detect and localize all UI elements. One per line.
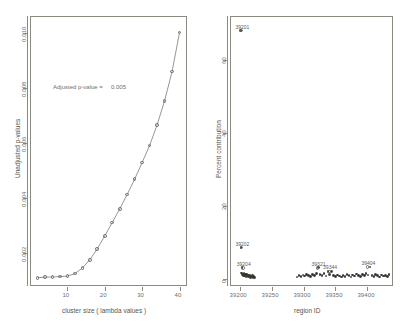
left-x-tick [142, 287, 143, 291]
left-x-tick [105, 287, 106, 291]
right-plot-frame [230, 16, 393, 286]
left-annotation-value: 0.005 [111, 84, 126, 90]
right-x-tick [272, 287, 273, 291]
left-y-ticklabel: 0.006 [21, 136, 27, 152]
left-marker [95, 247, 99, 251]
right-x-tick [335, 287, 336, 291]
right-data-point [315, 272, 318, 275]
left-y-axis-title: Unadjusted p-values [14, 119, 21, 178]
right-point-label: 39204 [237, 261, 251, 267]
right-data-point [378, 276, 381, 279]
right-y-axis-title: Percent contribution [215, 120, 222, 178]
left-plot-frame [30, 16, 187, 286]
right-x-ticklabel: 39300 [294, 292, 311, 298]
right-x-axis-title: region ID [294, 307, 320, 314]
left-marker [118, 207, 122, 211]
left-y-ticklabel: 0.010 [21, 26, 27, 42]
right-x-ticklabel: 39400 [357, 292, 374, 298]
left-y-ticklabel: 0.004 [21, 191, 27, 207]
figure-container: 0.0020.0040.0060.0080.010 10203040 Unadj… [0, 0, 408, 327]
right-y-ticklabel: 60 [221, 57, 227, 64]
right-data-point [253, 276, 256, 279]
right-y-axis-line [227, 16, 228, 286]
left-x-ticklabel: 10 [62, 292, 69, 298]
left-marker [88, 258, 92, 262]
right-x-ticklabel: 39350 [325, 292, 342, 298]
right-x-ticklabel: 39200 [230, 292, 247, 298]
left-marker [73, 272, 77, 276]
left-x-ticklabel: 20 [100, 292, 107, 298]
right-point-label: 39404 [361, 260, 375, 266]
left-marker [103, 234, 107, 238]
right-x-tick [304, 287, 305, 291]
left-y-ticklabel: 0.002 [21, 246, 27, 262]
right-data-point [328, 273, 331, 276]
right-x-ticklabel: 39250 [262, 292, 279, 298]
left-y-ticklabel: 0.008 [21, 81, 27, 97]
left-annotation-label: Adjusted p-value = [53, 84, 103, 90]
left-x-tick [180, 287, 181, 291]
right-point-label: 39202 [236, 241, 250, 247]
panel-left-pvalue-curve: 0.0020.0040.0060.0080.010 10203040 Unadj… [0, 0, 204, 327]
right-y-ticklabel: 20 [221, 203, 227, 210]
left-marker [81, 266, 85, 270]
right-y-ticklabel: 0 [221, 279, 227, 282]
left-y-axis-line [27, 16, 28, 286]
left-marker [163, 99, 167, 103]
panel-right-region-scatter: 392013920239204393213934439404 0204060 3… [204, 0, 408, 327]
left-x-tick [67, 287, 68, 291]
right-x-tick [240, 287, 241, 291]
left-marker [36, 276, 40, 280]
left-marker [66, 274, 70, 278]
left-marker [155, 123, 159, 127]
left-x-ticklabel: 30 [137, 292, 144, 298]
left-x-ticklabel: 40 [175, 292, 182, 298]
right-x-tick [367, 287, 368, 291]
left-marker [43, 275, 47, 279]
right-point-label: 39344 [323, 264, 337, 270]
right-point-label: 39201 [236, 24, 250, 30]
left-marker [51, 275, 55, 279]
left-x-axis-title: cluster size ( lambda values ) [62, 307, 146, 314]
